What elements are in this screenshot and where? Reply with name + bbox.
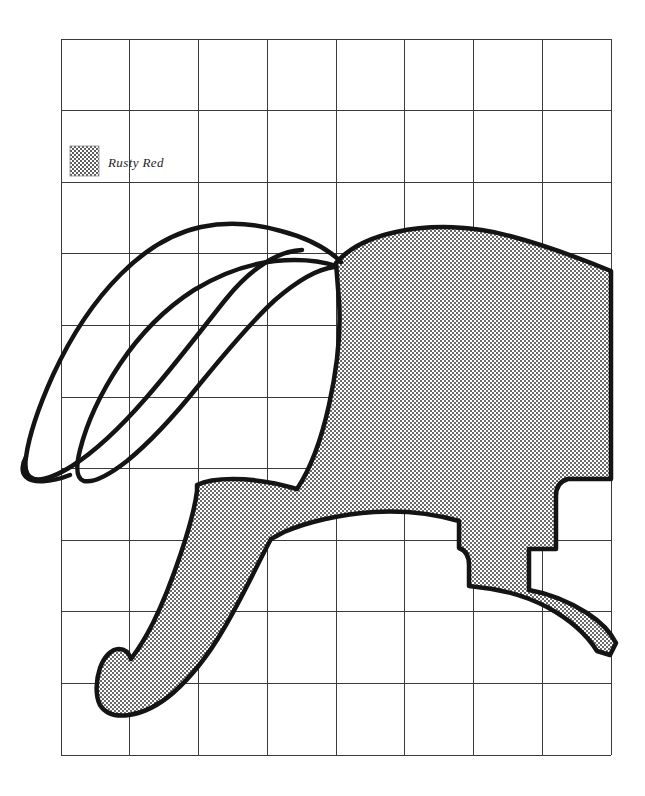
- pattern-chart-page: Rusty Red: [0, 0, 645, 796]
- legend-entry-label: Rusty Red: [107, 155, 164, 170]
- pattern-chart-artwork: Rusty Red: [0, 0, 645, 796]
- rusty-red-swatch-icon: [70, 146, 99, 176]
